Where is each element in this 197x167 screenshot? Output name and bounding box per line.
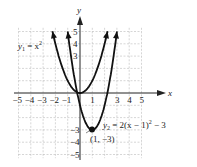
x-axis-arrow-icon bbox=[157, 90, 166, 96]
y-axis-arrow-icon bbox=[77, 16, 83, 25]
y-tick-label: 3 bbox=[73, 51, 78, 61]
y-tick-label: 4 bbox=[73, 39, 78, 49]
vertex-point bbox=[89, 127, 95, 133]
y-axis-label: y bbox=[76, 5, 81, 15]
y-tick-label: −5 bbox=[70, 150, 80, 160]
x-tick-label: −4 bbox=[25, 95, 35, 105]
y-tick-label: 5 bbox=[73, 27, 78, 37]
label-y1: y1 = x2 bbox=[17, 40, 42, 52]
x-tick-label: 4 bbox=[127, 95, 132, 105]
y-tick-label: −4 bbox=[70, 137, 80, 147]
x-tick-label: −2 bbox=[49, 95, 59, 105]
x-tick-label: 3 bbox=[115, 95, 120, 105]
x-tick-label: −3 bbox=[37, 95, 47, 105]
x-tick-label: 1 bbox=[90, 95, 95, 105]
graph: x y −5−4−3−2−11345 543−3−4−5 y1 = x2 y2 … bbox=[0, 0, 197, 167]
x-axis-label: x bbox=[167, 88, 172, 98]
x-tick-label: −5 bbox=[13, 95, 23, 105]
vertex-label: (1, −3) bbox=[90, 134, 115, 144]
x-tick-label: −1 bbox=[62, 95, 72, 105]
label-y2: y2 = 2(x − 1)2 − 3 bbox=[102, 119, 166, 131]
y-tick-label: −3 bbox=[70, 125, 80, 135]
curve-arrows bbox=[51, 31, 119, 39]
x-tick-label: 5 bbox=[140, 95, 145, 105]
